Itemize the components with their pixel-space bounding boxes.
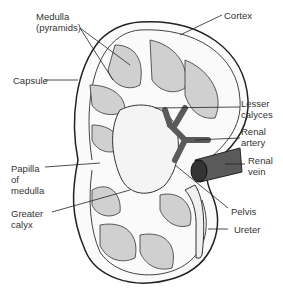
label-greater-calyx: Greater calyx: [11, 208, 43, 230]
renal-vein-opening: [191, 160, 207, 182]
label-medulla: Medulla (pyramids): [36, 11, 81, 33]
label-renal-vein: Renal vein: [248, 155, 273, 177]
label-cortex: Cortex: [224, 10, 252, 21]
label-renal-artery: Renal artery: [241, 126, 266, 148]
label-papilla-of-medulla: Papilla of medulla: [11, 163, 44, 196]
label-lesser-calyces: Lesser calyces: [241, 98, 273, 120]
label-pelvis: Pelvis: [231, 206, 256, 217]
label-capsule: Capsule: [13, 75, 48, 86]
kidney-illustration: [0, 0, 283, 297]
label-ureter: Ureter: [234, 224, 260, 235]
